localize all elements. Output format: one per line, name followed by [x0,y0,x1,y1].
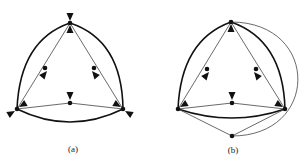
panel-a [6,13,133,122]
caption-a: (a) [68,144,78,154]
panel-b [176,20,298,139]
caption-b: (b) [228,145,239,155]
diagram-canvas [0,0,307,161]
